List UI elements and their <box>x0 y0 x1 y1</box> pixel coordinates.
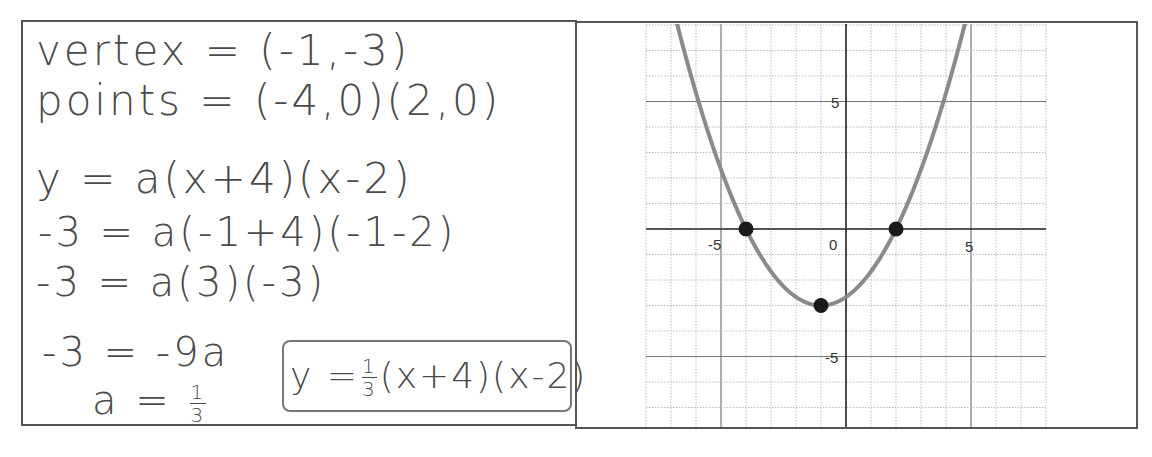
x-tick-label-0: 0 <box>829 236 837 253</box>
vertex-point <box>814 298 829 313</box>
parabola-graph: -5 0 5 5 -5 <box>0 0 1152 457</box>
x-intercept-point <box>739 222 754 237</box>
x-intercept-point <box>889 222 904 237</box>
y-tick-label-neg5: -5 <box>825 349 838 366</box>
x-tick-label-neg5: -5 <box>708 236 721 253</box>
y-tick-label-5: 5 <box>831 94 839 111</box>
x-tick-label-5: 5 <box>965 238 973 255</box>
axes <box>646 24 1046 427</box>
